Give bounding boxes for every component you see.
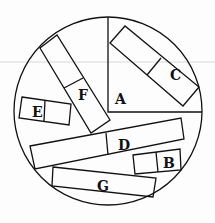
label-c: C (170, 67, 181, 83)
label-a: A (114, 91, 127, 107)
rectangle-divider (44, 100, 45, 121)
rectangle-divider (147, 58, 161, 75)
rectangle-divider (106, 133, 108, 155)
label-d: D (118, 137, 130, 153)
rectangle-outline (40, 35, 110, 133)
rectangle-g: G (52, 167, 156, 197)
label-e: E (32, 104, 43, 120)
diagram-stage: CFEDBG A (0, 0, 215, 223)
label-f: F (78, 87, 88, 103)
label-b: B (163, 155, 175, 171)
rectangle-d: D (30, 118, 184, 169)
rectangle-f: F (40, 35, 110, 133)
label-g: G (97, 178, 109, 194)
circle-rectangles-diagram: CFEDBG A (0, 0, 215, 223)
rectangle-divider (156, 152, 158, 172)
rectangle-e: E (19, 97, 71, 125)
rectangle-b: B (133, 149, 181, 174)
